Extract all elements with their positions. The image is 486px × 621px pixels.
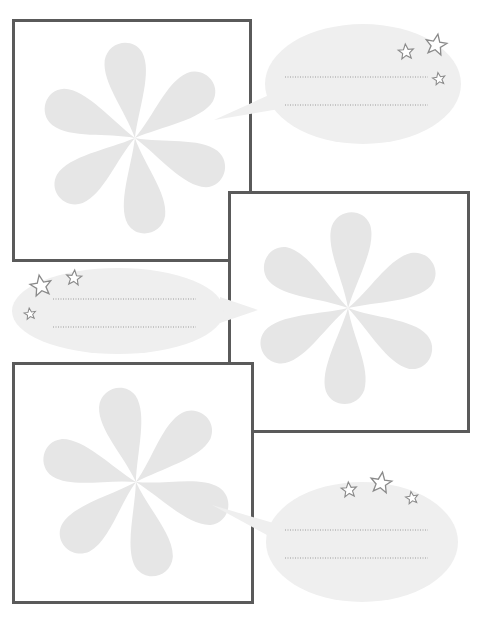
speech-bubble-1[interactable] xyxy=(210,20,470,150)
speech-bubble-2[interactable] xyxy=(10,265,260,360)
bubble-body xyxy=(12,268,224,354)
flower-icon xyxy=(231,194,467,430)
panel-2-frame xyxy=(228,191,470,433)
bubble-body xyxy=(266,482,458,602)
bubble-tail xyxy=(220,297,258,323)
speech-bubble-3[interactable] xyxy=(210,465,470,605)
